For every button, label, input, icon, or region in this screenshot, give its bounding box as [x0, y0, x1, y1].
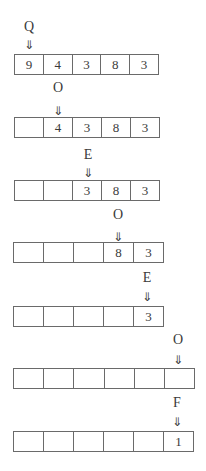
- array-cell: 4: [44, 118, 73, 137]
- array-row: 8 3: [13, 242, 164, 263]
- array-cell: [104, 432, 134, 451]
- array-cell: 3: [131, 118, 159, 137]
- step-label: E: [78, 147, 98, 163]
- array-cell: 3: [131, 181, 159, 200]
- array-cell: 8: [101, 55, 130, 74]
- array-row: 4 3 8 3: [14, 117, 160, 138]
- array-cell: 1: [164, 432, 193, 451]
- array-row: 9 4 3 8 3: [14, 54, 159, 75]
- array-cell: [165, 369, 194, 388]
- step-label: O: [48, 80, 68, 96]
- array-row: [13, 368, 195, 389]
- array-cell: [74, 307, 104, 326]
- down-double-arrow-icon: ⇓: [137, 290, 157, 304]
- step-label: E: [137, 270, 157, 286]
- array-cell: 3: [134, 307, 163, 326]
- down-double-arrow-icon: ⇓: [78, 166, 98, 180]
- array-cell: [15, 181, 44, 200]
- down-double-arrow-icon: ⇓: [168, 353, 188, 367]
- array-cell: 8: [102, 118, 131, 137]
- array-cell: [104, 307, 134, 326]
- array-cell: 9: [15, 55, 44, 74]
- array-cell: 4: [44, 55, 73, 74]
- array-cell: 8: [102, 181, 131, 200]
- array-cell: [44, 369, 74, 388]
- array-row: 1: [13, 431, 194, 452]
- array-cell: 3: [73, 118, 102, 137]
- array-cell: 3: [73, 181, 102, 200]
- array-cell: [74, 243, 104, 262]
- array-cell: 3: [130, 55, 158, 74]
- array-cell: [44, 243, 74, 262]
- array-cell: [14, 243, 44, 262]
- array-row: 3: [13, 306, 164, 327]
- array-row: 3 8 3: [14, 180, 160, 201]
- array-cell: 3: [134, 243, 163, 262]
- array-cell: 3: [73, 55, 102, 74]
- array-cell: [74, 369, 104, 388]
- array-cell: [135, 369, 165, 388]
- array-cell: 8: [104, 243, 134, 262]
- down-double-arrow-icon: ⇓: [19, 38, 39, 52]
- step-label: F: [167, 395, 187, 411]
- step-label: O: [168, 332, 188, 348]
- array-cell: [14, 307, 44, 326]
- array-cell: [105, 369, 135, 388]
- array-cell: [15, 118, 44, 137]
- array-cell: [14, 432, 44, 451]
- array-cell: [14, 369, 44, 388]
- array-cell: [44, 181, 73, 200]
- step-label: O: [108, 207, 128, 223]
- array-cell: [44, 307, 74, 326]
- down-double-arrow-icon: ⇓: [167, 415, 187, 429]
- array-cell: [74, 432, 104, 451]
- down-double-arrow-icon: ⇓: [48, 104, 68, 118]
- array-cell: [134, 432, 164, 451]
- array-cell: [44, 432, 74, 451]
- step-label: Q: [19, 19, 39, 35]
